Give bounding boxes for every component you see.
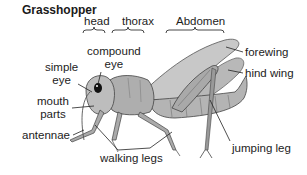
head (86, 76, 115, 115)
grasshopper-illustration (0, 0, 307, 175)
segment-braces (83, 27, 224, 33)
compound-eye-shape (94, 83, 102, 93)
